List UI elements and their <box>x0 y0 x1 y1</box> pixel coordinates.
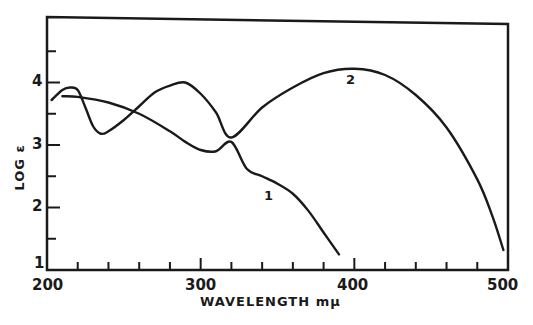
curve-2-label: 2 <box>346 72 355 87</box>
plot-frame <box>47 17 508 270</box>
curve-1-label: 1 <box>264 188 273 203</box>
x-tick-label-500: 500 <box>487 276 518 294</box>
x-tick-label-300: 300 <box>185 276 216 294</box>
y-tick-label-3: 3 <box>32 135 42 153</box>
y-axis-title: LOG ε <box>12 144 27 190</box>
axis-ticks <box>47 51 477 270</box>
y-tick-label-1: 1 <box>34 254 44 272</box>
x-tick-label-200: 200 <box>32 276 63 294</box>
x-axis-title: WAVELENGTH mμ <box>200 294 341 309</box>
curve-1 <box>62 96 339 254</box>
x-tick-label-400: 400 <box>337 276 368 294</box>
curve-2 <box>52 69 504 250</box>
y-tick-label-2: 2 <box>32 197 42 215</box>
absorption-spectrum-chart <box>0 0 533 325</box>
y-tick-label-4: 4 <box>32 72 42 90</box>
